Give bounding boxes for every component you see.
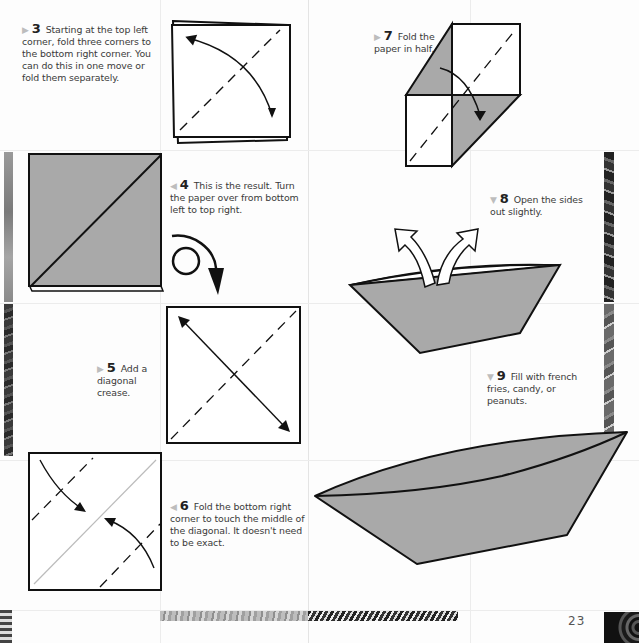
decorative-strip-corner <box>604 612 639 643</box>
right-triangle-icon: ▶ <box>374 32 381 42</box>
step-text: This is the result. Turn the paper over … <box>170 180 299 215</box>
step-8-caption: ▼8 Open the sides out slightly. <box>490 193 590 218</box>
step-5-caption: ▶5 Add a diagonal crease. <box>97 362 155 399</box>
left-triangle-icon: ◀ <box>170 502 177 512</box>
step-number: 4 <box>180 177 189 192</box>
decorative-strip-right-top <box>604 152 614 302</box>
step-5-illustration <box>166 306 302 446</box>
step-number: 9 <box>497 368 506 383</box>
step-number: 5 <box>107 360 116 375</box>
step-6-caption: ◀6 Fold the bottom right corner to touch… <box>170 500 310 549</box>
turn-over-arrow-icon <box>168 233 228 303</box>
step-4-illustration <box>28 153 166 293</box>
step-3-illustration <box>172 20 292 145</box>
left-triangle-icon: ◀ <box>170 181 177 191</box>
right-triangle-icon: ▶ <box>97 364 104 374</box>
right-triangle-icon: ▶ <box>22 25 29 35</box>
decorative-strip-left-footer <box>0 610 12 643</box>
step-text: Starting at the top left corner, fold th… <box>22 24 151 83</box>
step-text: Add a diagonal crease. <box>97 363 147 398</box>
step-text: Fold the bottom right corner to touch th… <box>170 501 304 548</box>
down-triangle-icon: ▼ <box>490 195 497 205</box>
step-3-caption: ▶3 Starting at the top left corner, fold… <box>22 23 162 84</box>
decorative-strip-left-top <box>4 152 13 302</box>
step-number: 6 <box>180 498 189 513</box>
step-number: 3 <box>32 21 41 36</box>
down-triangle-icon: ▼ <box>487 372 494 382</box>
step-number: 8 <box>500 191 509 206</box>
step-9-caption: ▼9 Fill with french fries, candy, or pea… <box>487 370 587 407</box>
step-9-illustration <box>312 428 632 568</box>
step-number: 7 <box>384 28 393 43</box>
decorative-strip-left-bottom <box>4 304 13 456</box>
page-number: 23 <box>568 614 585 628</box>
step-7-illustration <box>404 23 544 171</box>
step-6-illustration <box>28 452 164 594</box>
decorative-strip-footer-dark <box>308 611 458 621</box>
step-4-caption: ◀4 This is the result. Turn the paper ov… <box>170 179 310 216</box>
step-8-illustration <box>345 225 585 365</box>
decorative-strip-footer-light <box>160 611 308 621</box>
